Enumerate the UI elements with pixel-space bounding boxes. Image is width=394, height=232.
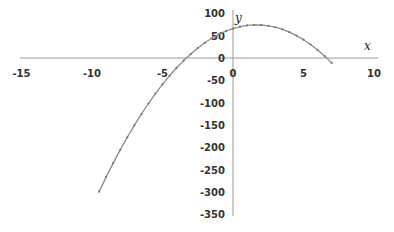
data-point	[183, 59, 185, 61]
data-point	[317, 49, 319, 51]
data-point	[168, 75, 170, 77]
data-point	[260, 24, 262, 26]
data-point	[154, 92, 156, 94]
x-axis-label: x	[364, 39, 371, 53]
y-tick-label: -50	[207, 75, 225, 86]
data-point	[98, 191, 100, 193]
y-tick-label: -100	[200, 98, 225, 109]
data-point	[161, 83, 163, 85]
data-point	[225, 30, 227, 32]
x-tick-label: -15	[12, 68, 30, 79]
y-tick-label: 100	[204, 8, 225, 19]
y-tick-label: -250	[200, 165, 225, 176]
x-tick-label: 10	[367, 68, 381, 79]
tick-labels: -15-10-50510100500-50-100-150-200-250-30…	[12, 8, 381, 220]
data-point	[211, 37, 213, 39]
x-tick-label: 0	[230, 68, 237, 79]
data-point	[190, 53, 192, 55]
data-point	[331, 62, 333, 64]
y-axis-label: y	[234, 11, 242, 25]
y-tick-label: 0	[218, 53, 225, 64]
data-point	[105, 176, 107, 178]
data-point	[267, 25, 269, 27]
data-point	[309, 43, 311, 45]
data-point	[324, 55, 326, 57]
data-point	[140, 113, 142, 115]
axes	[20, 10, 378, 216]
data-point	[295, 34, 297, 36]
chart: -15-10-50510100500-50-100-150-200-250-30…	[0, 0, 394, 232]
data-point	[204, 42, 206, 44]
x-tick-label: -10	[83, 68, 101, 79]
data-point	[197, 47, 199, 49]
data-point	[126, 136, 128, 138]
data-point	[253, 24, 255, 26]
data-point	[288, 31, 290, 33]
y-tick-label: -200	[200, 142, 225, 153]
x-tick-label: 5	[300, 68, 307, 79]
y-tick-label: -350	[200, 209, 225, 220]
data-point	[239, 26, 241, 28]
data-point	[133, 124, 135, 126]
data-point	[232, 27, 234, 29]
data-point	[274, 26, 276, 28]
data-point	[218, 33, 220, 35]
data-point	[281, 28, 283, 30]
data-point	[147, 102, 149, 104]
y-tick-label: -150	[200, 120, 225, 131]
data-point	[246, 24, 248, 26]
data-point	[302, 39, 304, 41]
data-point	[112, 162, 114, 164]
data-point	[176, 67, 178, 69]
data-point	[119, 149, 121, 151]
x-tick-label: -5	[157, 68, 168, 79]
y-tick-label: -300	[200, 187, 225, 198]
